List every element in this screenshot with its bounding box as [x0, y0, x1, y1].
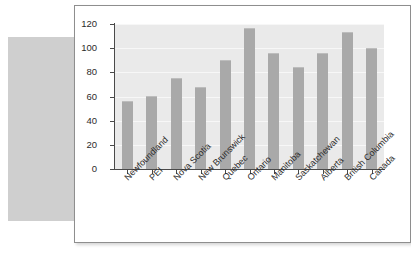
y-axis-tick-label: 80 — [57, 67, 97, 77]
gridline — [115, 24, 384, 25]
y-axis-tick — [110, 48, 114, 49]
y-axis-tick — [110, 145, 114, 146]
bar — [122, 101, 133, 169]
y-axis-tick-label: 60 — [57, 92, 97, 102]
y-axis-tick-label: 120 — [57, 19, 97, 29]
bar — [171, 78, 182, 169]
y-axis-tick — [110, 169, 114, 170]
backdrop-gray-block — [8, 37, 74, 221]
y-axis-tick-label: 20 — [57, 140, 97, 150]
y-axis-tick — [110, 72, 114, 73]
y-axis-tick — [110, 97, 114, 98]
y-axis-tick-label: 0 — [57, 164, 97, 174]
y-axis-tick — [110, 24, 114, 25]
chart-figure-panel: 020406080100120 NewfoundlandPEINova Scot… — [74, 5, 411, 243]
bar — [342, 32, 353, 169]
y-axis-line — [114, 23, 115, 170]
y-axis-tick-label: 100 — [57, 43, 97, 53]
y-axis-tick-label: 40 — [57, 116, 97, 126]
bar — [268, 53, 279, 169]
bar — [244, 28, 255, 169]
y-axis-tick — [110, 121, 114, 122]
